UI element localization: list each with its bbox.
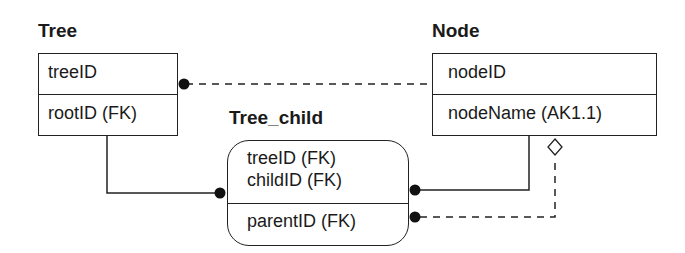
dot-terminator-icon xyxy=(410,185,421,196)
diamond-optional-icon xyxy=(548,139,562,155)
relationship-lines xyxy=(0,0,685,253)
relationship-node-treechild-child[interactable] xyxy=(410,136,530,196)
relationship-tree-treechild[interactable] xyxy=(107,136,226,199)
dot-terminator-icon xyxy=(410,212,421,223)
dot-terminator-icon xyxy=(215,188,226,199)
relationship-tree-node-root[interactable] xyxy=(179,79,433,90)
relationship-node-treechild-parent[interactable] xyxy=(410,139,563,223)
dot-terminator-icon xyxy=(179,79,190,90)
